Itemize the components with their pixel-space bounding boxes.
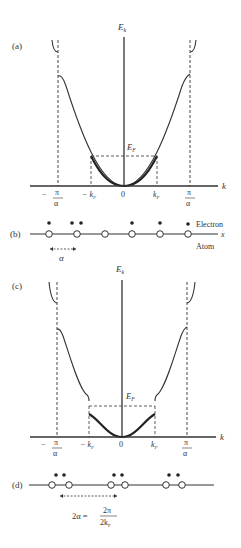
panel-a-ef-label: EF — [126, 142, 136, 153]
panel-a-upper-band-left — [52, 40, 58, 52]
panel-d-label: (d) — [12, 480, 23, 490]
tick-neg-kf: − kF — [80, 440, 95, 450]
panel-a-upper-band-right — [190, 40, 196, 52]
tick-pi: π — [55, 188, 59, 197]
panel-c-tick-labels: − π α − kF 0 kF π α — [41, 438, 192, 458]
panel-d-formula-den: 2kF — [100, 518, 111, 528]
tick-zero: 0 — [121, 190, 125, 199]
panel-d-electrons — [54, 473, 180, 477]
tick-kf: kF — [151, 440, 159, 450]
panel-a: (a) Ek k EF − π α − kF 0 kF π — [12, 22, 227, 208]
panel-d-formula-lhs: 2α = — [72, 511, 88, 521]
tick-minus: − — [42, 190, 47, 199]
panel-b-electron-label: Electron — [196, 220, 223, 229]
panel-a-label: (a) — [12, 41, 22, 51]
panel-b-x-label: x — [220, 230, 225, 239]
tick-pi-right: π — [184, 438, 188, 447]
panel-b: (b) Electron x Atom α — [10, 220, 225, 263]
panel-d-formula-num: 2π — [103, 506, 111, 515]
tick-alpha-right: α — [186, 199, 191, 208]
panel-a-ek-label: Ek — [117, 22, 127, 33]
panel-c-label: (c) — [12, 281, 22, 291]
panel-a-k-label: k — [222, 181, 227, 191]
tick-neg-kf: − kF — [82, 190, 97, 200]
panel-c-upper-band-segment-left — [57, 329, 89, 401]
panel-c-ek-label: Ek — [115, 264, 125, 275]
panel-c-upper-band-segment-right — [155, 327, 187, 401]
panel-c-k-label: k — [220, 432, 225, 442]
panel-d: (d) 2α = 2π 2kF — [12, 473, 214, 528]
panel-b-electrons — [47, 221, 190, 226]
panel-c-ef-label: EF — [125, 391, 135, 402]
panel-a-tick-labels: − π α − kF 0 kF π α — [42, 188, 195, 208]
tick-minus: − — [41, 440, 46, 449]
panel-b-atom-label: Atom — [196, 242, 215, 251]
tick-alpha: α — [54, 199, 59, 208]
panel-c: (c) Ek k EF − π α − kF 0 kF π α — [12, 264, 225, 458]
tick-alpha-right: α — [183, 449, 188, 458]
panel-c-top-band-right — [187, 282, 195, 303]
tick-kf: kF — [153, 190, 161, 200]
tick-pi: π — [54, 438, 58, 447]
tick-zero: 0 — [119, 440, 123, 449]
panel-b-label: (b) — [10, 229, 21, 239]
panel-c-top-band-left — [49, 282, 57, 303]
tick-alpha: α — [53, 449, 58, 458]
peierls-distortion-diagram: (a) Ek k EF − π α − kF 0 kF π — [0, 0, 241, 548]
tick-pi-right: π — [187, 188, 191, 197]
panel-b-alpha-label: α — [59, 253, 64, 263]
